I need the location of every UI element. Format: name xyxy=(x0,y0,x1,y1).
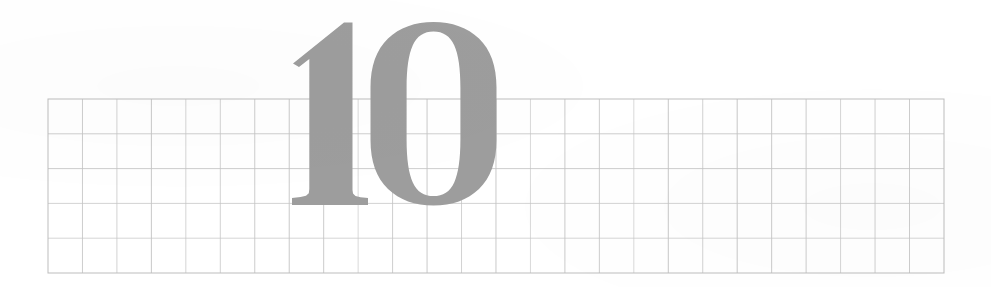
scan-canvas xyxy=(0,0,991,287)
scanned-page: 10 Page number 10 printed over ruled gra… xyxy=(0,0,991,287)
page-number xyxy=(292,22,497,206)
